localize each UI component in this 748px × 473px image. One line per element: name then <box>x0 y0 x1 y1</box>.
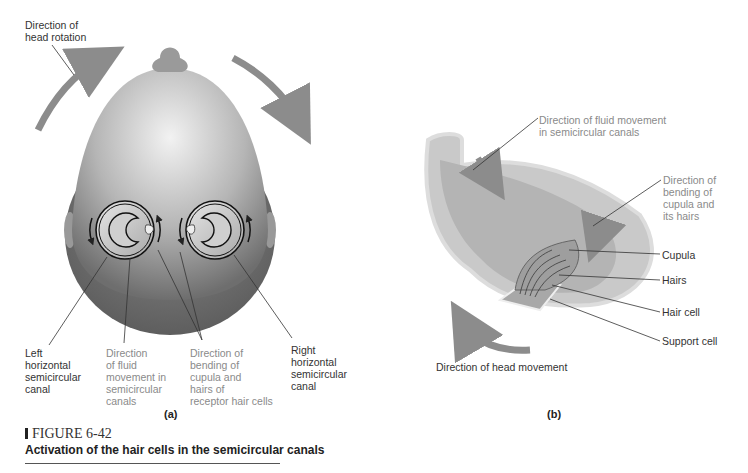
label-bending-a: Direction of bending of cupula and hairs… <box>190 347 273 407</box>
head-movement-arrow <box>465 325 530 350</box>
figure-bar-icon <box>25 428 28 439</box>
ampulla-illustration <box>426 134 652 310</box>
caption-divider <box>25 463 280 464</box>
rotation-arrow-right <box>233 58 298 120</box>
label-left-canal: Left horizontal semicircular canal <box>25 347 81 395</box>
label-hairs: Hairs <box>662 274 687 286</box>
label-right-canal: Right horizontal semicircular canal <box>291 344 347 392</box>
label-head-movement: Direction of head movement <box>436 361 567 373</box>
rotation-arrow-left <box>38 60 100 130</box>
label-support-cell: Support cell <box>662 335 717 347</box>
label-bending-b: Direction of bending of cupula and its h… <box>663 174 716 222</box>
head-illustration <box>64 48 276 336</box>
figure-number: FIGURE 6-42 <box>25 426 112 442</box>
label-cupula: Cupula <box>662 249 695 261</box>
label-fluid-movement-a: Direction of fluid movement in semicircu… <box>106 347 166 407</box>
panel-a-label: (a) <box>164 408 177 420</box>
label-fluid-movement-b: Direction of fluid movement in semicircu… <box>539 114 666 138</box>
panel-b-label: (b) <box>547 408 561 420</box>
label-head-rotation: Direction of head rotation <box>25 19 86 43</box>
label-hair-cell: Hair cell <box>662 306 700 318</box>
figure-caption: Activation of the hair cells in the semi… <box>25 443 324 457</box>
